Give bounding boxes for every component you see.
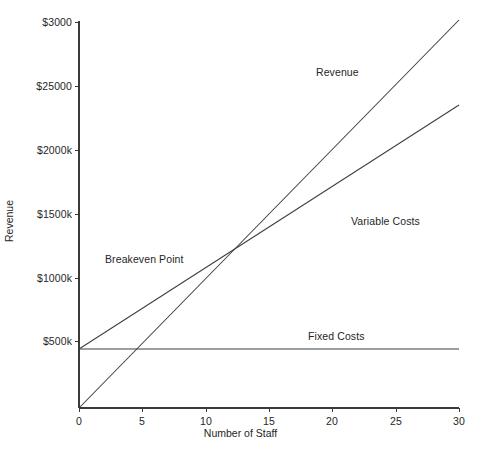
breakeven-point-label: Breakeven Point — [105, 253, 184, 265]
x-tick-label-5: 5 — [139, 415, 145, 427]
y-tick-label-500: $500k — [4, 335, 72, 347]
variable-costs-series-label: Variable Costs — [351, 215, 420, 227]
y-tick-label-2000: $2000k — [4, 144, 72, 156]
breakeven-chart: $3000 $25000 $2000k $1500k $1000k $500k … — [0, 0, 481, 451]
y-tick-label-2500: $25000 — [4, 80, 72, 92]
x-tick-label-20: 20 — [326, 415, 338, 427]
x-axis-ticks — [79, 408, 459, 412]
x-tick-label-0: 0 — [76, 415, 82, 427]
x-tick-label-10: 10 — [200, 415, 212, 427]
x-tick-label-15: 15 — [263, 415, 275, 427]
y-tick-label-3000: $3000 — [4, 16, 72, 28]
x-tick-label-25: 25 — [390, 415, 402, 427]
x-axis-title: Number of Staff — [0, 427, 481, 439]
y-tick-label-1000: $1000k — [4, 272, 72, 284]
x-tick-label-30: 30 — [453, 415, 465, 427]
y-axis-title: Revenue — [3, 191, 15, 251]
y-axis-ticks — [75, 22, 79, 341]
revenue-series-label: Revenue — [316, 66, 359, 78]
variable-costs-line — [79, 105, 459, 349]
revenue-line — [79, 20, 459, 408]
fixed-costs-series-label: Fixed Costs — [308, 330, 365, 342]
